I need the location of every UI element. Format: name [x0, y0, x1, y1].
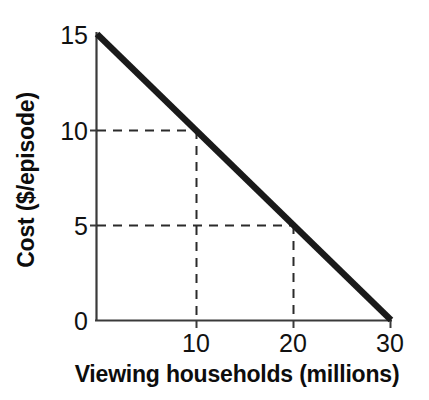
x-tick-label-20: 20 — [279, 329, 307, 357]
y-tick-label-15: 15 — [60, 21, 88, 49]
x-tick-label-30: 30 — [376, 329, 404, 357]
chart-background — [0, 0, 429, 400]
y-tick-label-5: 5 — [74, 212, 88, 240]
chart-figure: 15 10 5 0 10 20 30 Viewing households (m… — [0, 0, 429, 400]
y-tick-label-10: 10 — [60, 117, 88, 145]
cost-vs-households-line-chart: 15 10 5 0 10 20 30 Viewing households (m… — [0, 0, 429, 400]
x-tick-label-10: 10 — [182, 329, 210, 357]
y-axis-title: Cost ($/episode) — [13, 92, 39, 268]
y-tick-label-0: 0 — [74, 307, 88, 335]
x-axis-title: Viewing households (millions) — [75, 361, 400, 387]
